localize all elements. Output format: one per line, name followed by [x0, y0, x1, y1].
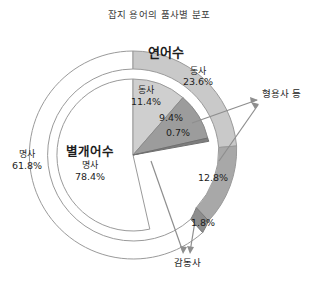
- chart-figure: 잡지 용어의 품사별 분포: [0, 0, 318, 288]
- outer-ring-title: 연어수: [148, 46, 184, 61]
- callout-interjection-label: 감동사: [174, 258, 201, 269]
- arrowhead-adjective-outer: [251, 102, 259, 109]
- inner-verb-label: 동사: [138, 85, 154, 95]
- inner-ring-title: 별개어수: [66, 145, 114, 159]
- outer-verb-value: 23.6%: [183, 77, 213, 88]
- outer-verb-label: 동사: [190, 66, 206, 76]
- outer-interjection-value: 1.8%: [191, 218, 215, 229]
- arrowhead-interjection-inner: [180, 246, 187, 254]
- double-donut-chart: [0, 0, 318, 288]
- arrowhead-interjection-outer: [187, 246, 194, 254]
- outer-noun-label: 명사: [19, 149, 35, 159]
- inner-noun-value: 78.4%: [75, 172, 105, 183]
- inner-adjective-value: 9.4%: [159, 113, 183, 124]
- inner-interjection-value: 0.7%: [166, 128, 190, 139]
- outer-adjective-value: 12.8%: [198, 173, 228, 184]
- callout-adjective-label: 형용사 등: [262, 89, 301, 100]
- inner-noun-label: 명사: [82, 160, 98, 170]
- inner-verb-value: 11.4%: [131, 97, 161, 108]
- outer-noun-value: 61.8%: [12, 161, 42, 172]
